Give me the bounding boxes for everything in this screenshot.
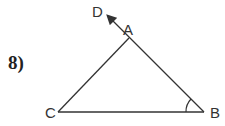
triangle-diagram xyxy=(0,0,225,126)
vertex-label-b: B xyxy=(210,104,220,121)
angle-b-arc xyxy=(186,99,191,112)
vertex-label-c: C xyxy=(45,104,56,121)
side-ca xyxy=(58,38,129,112)
vertex-label-a: A xyxy=(123,21,133,38)
vertex-label-d: D xyxy=(92,3,103,20)
